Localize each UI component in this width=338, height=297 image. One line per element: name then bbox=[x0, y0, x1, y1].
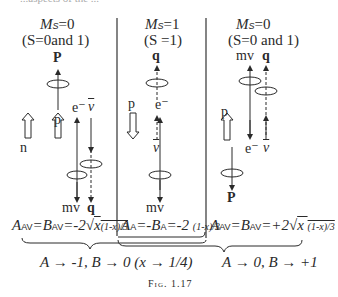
panel3-mv-label: mv bbox=[236, 48, 254, 64]
panel2-p-label: p bbox=[128, 96, 135, 112]
cut-off-text: ...aspects of the ... bbox=[20, 0, 99, 4]
panel3-nu-label: ν bbox=[263, 140, 269, 156]
panel1-nu-label: ν bbox=[88, 99, 94, 115]
panel2-spin-state: (S =1) bbox=[144, 33, 182, 48]
panel1-n-label: n bbox=[20, 140, 27, 156]
panel3-p-label: p bbox=[221, 104, 228, 120]
panel1-q-label: q bbox=[87, 200, 95, 216]
panel2-e-label: e⁻ bbox=[155, 96, 169, 113]
formula-left: AAV=BAV=-2√x(1-x)/3 bbox=[12, 217, 128, 234]
formula-middle: AA=-BA=-2 (1-x)/3 bbox=[121, 217, 220, 234]
panel2-nu-label: ν bbox=[153, 140, 159, 156]
panel3-e-label: e⁻ bbox=[245, 140, 259, 157]
panel2-mv-label: mv bbox=[146, 200, 164, 216]
panel3-P-label: P bbox=[227, 190, 236, 206]
panel1-mv-label: mv bbox=[62, 200, 80, 216]
panel3-spin-state: (S=0 and 1) bbox=[228, 33, 299, 48]
panel1-p-label: p bbox=[54, 112, 61, 128]
panel1-P-label: P bbox=[53, 50, 62, 66]
limit-right: A → 0, B → +1 bbox=[222, 254, 318, 271]
panel3-q-label: q bbox=[262, 48, 270, 64]
limit-left: A → -1, B → 0 (x → 1/4) bbox=[40, 254, 193, 271]
panel1-spin-state: (S=0and 1) bbox=[22, 33, 89, 48]
formula-right: AAV=BAV=+2√x (1-x)/3 bbox=[210, 217, 335, 234]
panel2-q-label: q bbox=[152, 48, 160, 64]
panel1-e-label: e⁻ bbox=[72, 99, 86, 116]
figure-caption: Fig. 1.17 bbox=[148, 278, 192, 289]
